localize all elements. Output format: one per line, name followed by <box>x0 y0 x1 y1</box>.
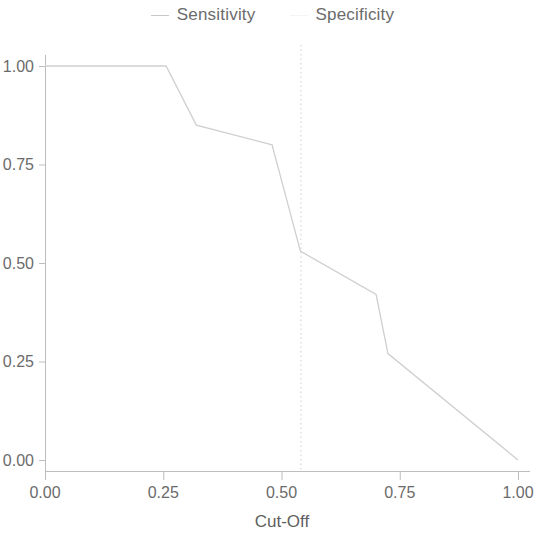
x-tick-label: 0.25 <box>148 484 179 501</box>
x-tick-label: 0.00 <box>29 484 60 501</box>
y-tick-label: 0.75 <box>3 156 34 173</box>
x-axis-title: Cut-Off <box>255 512 310 531</box>
y-tick-label: 1.00 <box>3 58 34 75</box>
series-line-sensitivity <box>45 66 518 460</box>
chart-container: Sensitivity Specificity 0.000.250.500.75… <box>0 0 545 536</box>
x-tick-label: 1.00 <box>502 484 533 501</box>
y-tick-label: 0.50 <box>3 255 34 272</box>
plot-area: 0.000.250.500.751.00 0.000.250.500.751.0… <box>0 0 545 536</box>
x-tick-label: 0.75 <box>384 484 415 501</box>
y-axis-ticks: 0.000.250.500.751.00 <box>3 58 45 469</box>
y-tick-label: 0.00 <box>3 452 34 469</box>
x-tick-label: 0.50 <box>266 484 297 501</box>
y-tick-label: 0.25 <box>3 353 34 370</box>
x-axis-ticks: 0.000.250.500.751.00 <box>29 472 533 501</box>
